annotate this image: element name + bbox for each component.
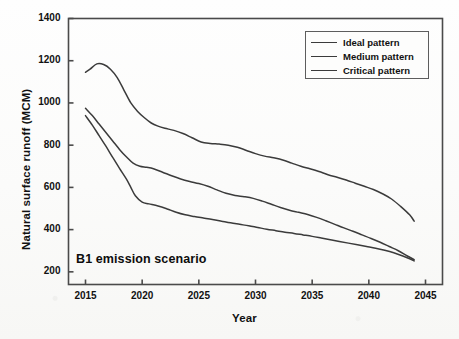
x-tick-label: 2045 <box>406 290 446 301</box>
series-line-critical-pattern <box>86 116 415 261</box>
y-tick-label: 600 <box>27 181 61 192</box>
legend-line-swatch-critical <box>311 70 337 71</box>
legend-line-swatch-ideal <box>311 42 337 43</box>
x-tick-label: 2015 <box>66 290 106 301</box>
y-tick-label: 800 <box>27 139 61 150</box>
legend-item-ideal-pattern: Ideal pattern <box>311 36 428 49</box>
y-tick-label: 200 <box>27 265 61 276</box>
chart-figure: Natural surface runoff (MCM) Year B1 emi… <box>0 0 459 339</box>
series-line-medium-pattern <box>86 108 415 259</box>
x-tick-label: 2040 <box>349 290 389 301</box>
chart-legend: Ideal pattern Medium pattern Critical pa… <box>305 31 429 79</box>
x-tick-label: 2035 <box>292 290 332 301</box>
x-tick-label: 2030 <box>236 290 276 301</box>
y-tick-label: 1000 <box>27 96 61 107</box>
y-tick-label: 1200 <box>27 54 61 65</box>
x-tick-label: 2020 <box>122 290 162 301</box>
x-axis-title: Year <box>232 312 257 324</box>
legend-label-critical: Critical pattern <box>343 65 410 76</box>
legend-item-critical-pattern: Critical pattern <box>311 64 428 77</box>
legend-item-medium-pattern: Medium pattern <box>311 50 428 63</box>
legend-label-ideal: Ideal pattern <box>343 37 400 48</box>
y-tick-label: 400 <box>27 223 61 234</box>
x-tick-label: 2025 <box>179 290 219 301</box>
legend-label-medium: Medium pattern <box>343 51 414 62</box>
data-series-group <box>86 64 415 261</box>
legend-line-swatch-medium <box>311 56 337 57</box>
y-tick-label: 1400 <box>27 12 61 23</box>
scenario-annotation: B1 emission scenario <box>76 252 207 266</box>
